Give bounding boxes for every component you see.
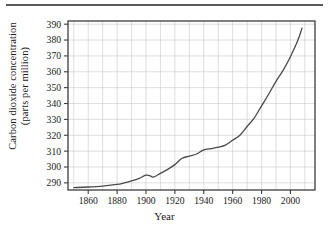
figure-container: Carbon dioxide concentration (parts per … xyxy=(0,0,329,240)
y-tick-label: 370 xyxy=(47,50,62,61)
y-tick-label: 290 xyxy=(47,177,62,188)
x-tick-label: 1860 xyxy=(79,195,98,206)
plot-frame xyxy=(68,21,315,190)
y-tick-label: 380 xyxy=(47,34,62,45)
y-tick-label: 330 xyxy=(47,114,62,125)
x-tick-label: 2000 xyxy=(281,195,300,206)
y-tick-label: 350 xyxy=(47,82,62,93)
y-tick-label: 300 xyxy=(47,161,62,172)
x-tick-label: 1960 xyxy=(223,195,242,206)
y-tick-labels: 290300310320330340350360370380390 xyxy=(47,19,62,189)
y-tick-label: 360 xyxy=(47,66,62,77)
y-tick-label: 390 xyxy=(47,19,62,30)
y-tick-label: 310 xyxy=(47,146,62,157)
y-tick-label: 340 xyxy=(47,98,62,109)
axis-ticks xyxy=(64,24,290,194)
y-tick-label: 320 xyxy=(47,130,62,141)
co2-data-line xyxy=(74,28,302,187)
x-tick-label: 1940 xyxy=(194,195,213,206)
grid-lines xyxy=(68,21,315,190)
x-tick-label: 1920 xyxy=(165,195,184,206)
x-tick-label: 1880 xyxy=(108,195,127,206)
x-tick-label: 1980 xyxy=(252,195,271,206)
x-tick-labels: 18601880190019201940196019802000 xyxy=(79,195,301,206)
x-tick-label: 1900 xyxy=(136,195,155,206)
x-axis-label: Year xyxy=(0,210,329,222)
line-chart-plot: 290300310320330340350360370380390 186018… xyxy=(0,0,329,240)
